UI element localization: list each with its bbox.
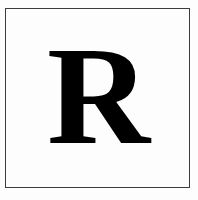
letter-glyph: R bbox=[47, 26, 150, 166]
glyph-container: R bbox=[5, 8, 190, 188]
letter-plate: R bbox=[0, 0, 198, 200]
